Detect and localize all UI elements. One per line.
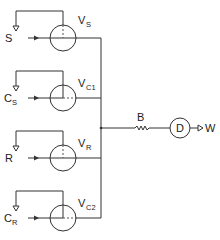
input-arrow-icon [34,216,39,221]
valve-label-sub: S [86,20,91,29]
valve-label: V [78,77,86,89]
valve-label: V [78,14,86,26]
input-arrow-icon [34,96,39,101]
output-label: W [205,122,216,134]
feedback-arrow-icon [13,26,19,31]
valve-label-sub: R [86,143,92,152]
resistor-label: B [137,111,144,123]
detector-label: D [176,122,184,134]
valve-label-sub: C2 [86,203,96,212]
input-label: S [5,32,12,44]
input-label: R [5,152,13,164]
feedback-arrow-icon [13,86,19,91]
input-label-sub: R [12,218,18,227]
valve-label-sub: C1 [86,83,96,92]
input-label: C [4,212,12,224]
valve-vc1: C S V C1 [4,71,101,111]
input-label-sub: S [12,98,17,107]
valve-vs: S V S [5,11,101,51]
input-label: C [4,92,12,104]
valve-vc2: C R V C2 [4,191,101,231]
valve-diagram: S V S C S V C1 R V R C R [0,0,220,240]
input-arrow-icon [34,156,39,161]
output-arrow-icon [198,125,203,131]
valve-label: V [78,137,86,149]
input-arrow-icon [34,36,39,41]
valve-label: V [78,197,86,209]
resistor-icon [135,126,149,130]
feedback-arrow-icon [13,206,19,211]
feedback-arrow-icon [13,146,19,151]
valve-vr: R V R [5,131,101,171]
